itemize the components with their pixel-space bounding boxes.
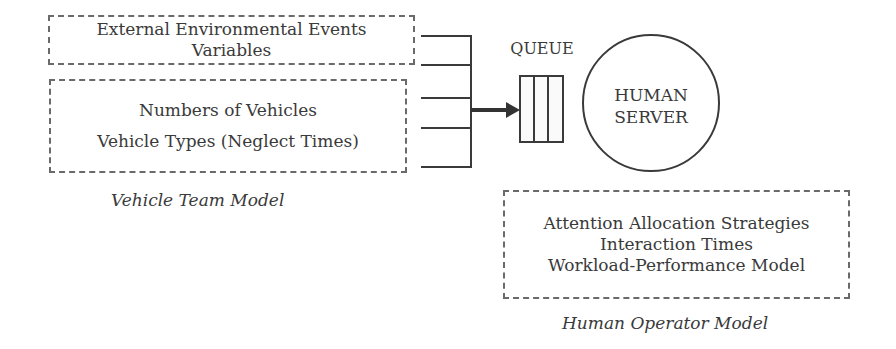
input-lines <box>421 35 472 168</box>
queue-icon <box>520 76 563 142</box>
human-server-label: HUMAN SERVER <box>583 84 719 128</box>
server-label: SERVER <box>583 106 719 128</box>
human-label: HUMAN <box>583 84 719 106</box>
queue-label: QUEUE <box>504 39 580 58</box>
human-operator-box: Attention Allocation Strategies Interact… <box>503 190 850 299</box>
workload-performance-label: Workload-Performance Model <box>548 255 805 276</box>
interaction-times-label: Interaction Times <box>600 234 753 255</box>
attention-allocation-label: Attention Allocation Strategies <box>543 213 809 234</box>
arrow-icon <box>471 102 520 118</box>
human-operator-model-caption: Human Operator Model <box>562 313 768 333</box>
